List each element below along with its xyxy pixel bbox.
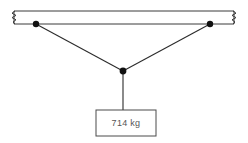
- diagram-canvas: 714 kg: [0, 0, 248, 143]
- free-body-diagram: 714 kg: [0, 0, 248, 143]
- left-anchor-node: [33, 21, 39, 27]
- load-mass-label: 714 kg: [112, 118, 141, 128]
- left-cable: [36, 24, 123, 71]
- ceiling-beam: [14, 11, 234, 24]
- junction-node: [120, 68, 127, 75]
- right-cable: [123, 24, 210, 71]
- right-anchor-node: [207, 21, 213, 27]
